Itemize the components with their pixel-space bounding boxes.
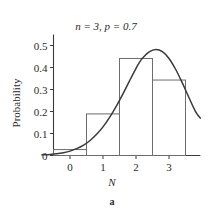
- y-tick-group: 00.10.20.30.40.5: [34, 40, 54, 162]
- figure-panel: n = 3, p = 0.7 00.10.20.30.40.5 0123 Pro…: [0, 0, 212, 215]
- probability-histogram-chart: n = 3, p = 0.7 00.10.20.30.40.5 0123 Pro…: [0, 0, 212, 215]
- x-axis-title: N: [107, 176, 116, 188]
- normal-approximation-curve: [42, 49, 200, 154]
- x-tick-label: 2: [133, 161, 139, 173]
- y-tick-label: 0.5: [34, 40, 48, 52]
- x-tick-label: 3: [166, 161, 172, 173]
- y-tick-label: 0.4: [34, 62, 48, 74]
- x-tick-label: 1: [100, 161, 106, 173]
- x-tick-group: 0123: [67, 156, 172, 173]
- x-tick-label: 0: [67, 161, 73, 173]
- figure-caption: a: [110, 196, 115, 207]
- histogram-bars: [54, 58, 186, 155]
- histogram-bar: [153, 80, 186, 155]
- histogram-bar: [120, 58, 153, 155]
- y-axis-title: Probability: [10, 78, 22, 127]
- y-tick-label: 0.1: [34, 128, 48, 140]
- x-axis: 0123: [54, 156, 201, 173]
- y-tick-label: 0.2: [34, 106, 48, 118]
- chart-title: n = 3, p = 0.7: [75, 20, 137, 32]
- histogram-bar: [87, 114, 120, 156]
- y-axis: 00.10.20.30.40.5: [34, 35, 54, 162]
- y-tick-label: 0.3: [34, 84, 48, 96]
